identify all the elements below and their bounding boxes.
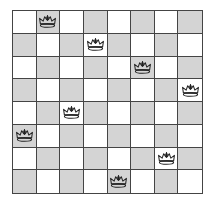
board-square-r4-c3[interactable] [84,102,108,125]
crown-icon[interactable] [38,14,57,29]
board-square-r6-c0[interactable] [13,148,37,171]
board-square-r1-c1[interactable] [37,34,61,57]
board-square-r3-c6[interactable] [155,79,179,102]
board-square-r2-c0[interactable] [13,57,37,80]
board-square-r1-c2[interactable] [60,34,84,57]
board-square-r1-c7[interactable] [178,34,202,57]
board-square-r7-c3[interactable] [84,170,108,193]
board-square-r1-c6[interactable] [155,34,179,57]
board-square-r0-c4[interactable] [108,11,132,34]
board-square-r6-c5[interactable] [131,148,155,171]
board-square-r4-c1[interactable] [37,102,61,125]
board-square-r4-c5[interactable] [131,102,155,125]
board-square-r5-c3[interactable] [84,125,108,148]
board-square-r3-c2[interactable] [60,79,84,102]
board-square-r2-c4[interactable] [108,57,132,80]
board-square-r0-c5[interactable] [131,11,155,34]
board-square-r7-c7[interactable] [178,170,202,193]
board-square-r5-c6[interactable] [155,125,179,148]
board-square-r1-c5[interactable] [131,34,155,57]
board-square-r6-c6[interactable] [155,148,179,171]
board-square-r0-c2[interactable] [60,11,84,34]
crown-icon[interactable] [133,60,152,75]
board-square-r0-c7[interactable] [178,11,202,34]
crown-icon[interactable] [15,128,34,143]
board-square-r2-c1[interactable] [37,57,61,80]
board-square-r3-c5[interactable] [131,79,155,102]
board-square-r2-c3[interactable] [84,57,108,80]
chess-board [12,10,203,194]
board-square-r6-c4[interactable] [108,148,132,171]
board-square-r4-c2[interactable] [60,102,84,125]
board-square-r5-c5[interactable] [131,125,155,148]
crown-icon[interactable] [109,174,128,189]
crown-icon[interactable] [86,37,105,52]
board-square-r2-c2[interactable] [60,57,84,80]
crown-icon[interactable] [62,105,81,120]
board-square-r4-c6[interactable] [155,102,179,125]
board-square-r6-c2[interactable] [60,148,84,171]
crown-icon[interactable] [157,151,176,166]
board-square-r4-c4[interactable] [108,102,132,125]
board-square-r5-c2[interactable] [60,125,84,148]
board-square-r1-c3[interactable] [84,34,108,57]
board-square-r3-c4[interactable] [108,79,132,102]
board-square-r0-c0[interactable] [13,11,37,34]
crown-icon[interactable] [181,83,200,98]
board-square-r2-c5[interactable] [131,57,155,80]
board-square-r7-c4[interactable] [108,170,132,193]
board-square-r0-c3[interactable] [84,11,108,34]
board-square-r0-c1[interactable] [37,11,61,34]
board-square-r5-c4[interactable] [108,125,132,148]
board-square-r7-c6[interactable] [155,170,179,193]
board-square-r3-c7[interactable] [178,79,202,102]
board-square-r7-c5[interactable] [131,170,155,193]
board-square-r1-c0[interactable] [13,34,37,57]
board-square-r2-c6[interactable] [155,57,179,80]
board-square-r6-c1[interactable] [37,148,61,171]
board-square-r3-c1[interactable] [37,79,61,102]
board-square-r6-c7[interactable] [178,148,202,171]
board-square-r5-c1[interactable] [37,125,61,148]
board-square-r2-c7[interactable] [178,57,202,80]
board-square-r7-c1[interactable] [37,170,61,193]
board-square-r5-c0[interactable] [13,125,37,148]
board-square-r5-c7[interactable] [178,125,202,148]
board-square-r1-c4[interactable] [108,34,132,57]
board-square-r7-c0[interactable] [13,170,37,193]
board-square-r3-c0[interactable] [13,79,37,102]
board-square-r6-c3[interactable] [84,148,108,171]
board-square-r3-c3[interactable] [84,79,108,102]
board-square-r7-c2[interactable] [60,170,84,193]
board-square-r4-c0[interactable] [13,102,37,125]
board-square-r0-c6[interactable] [155,11,179,34]
board-square-r4-c7[interactable] [178,102,202,125]
